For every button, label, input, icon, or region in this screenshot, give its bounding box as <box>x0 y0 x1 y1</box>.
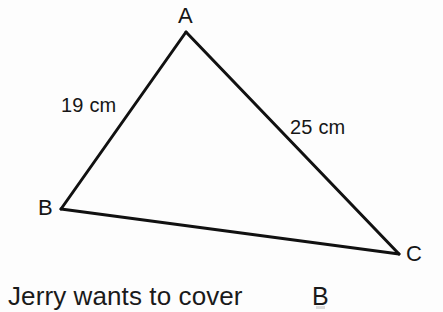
side-length-label-ac: 25 cm <box>290 117 345 137</box>
vertex-label-b: B <box>38 197 53 219</box>
caption-row: Jerry wants to cover B <box>0 281 443 312</box>
vertex-label-a: A <box>178 5 193 27</box>
triangle-side-ac <box>186 32 399 254</box>
vertex-label-c: C <box>406 243 422 265</box>
diagram-canvas: A B C 19 cm 25 cm Jerry wants to cover B <box>0 0 443 312</box>
caption-text: Jerry wants to cover <box>8 281 243 312</box>
side-length-label-ab: 19 cm <box>61 95 116 115</box>
triangle-side-ab <box>61 32 186 209</box>
triangle-side-bc <box>61 209 399 254</box>
triangle-figure <box>0 0 443 312</box>
scan-artifact-mark <box>316 306 325 309</box>
